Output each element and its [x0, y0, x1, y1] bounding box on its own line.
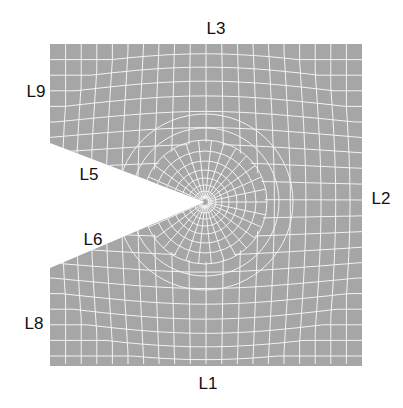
mesh-diagram	[0, 0, 403, 408]
edge-label-l1: L1	[199, 374, 218, 394]
edge-label-l8: L8	[25, 314, 44, 334]
edge-label-l6: L6	[84, 230, 103, 250]
edge-label-l9: L9	[27, 82, 46, 102]
edge-label-l3: L3	[207, 19, 226, 39]
edge-label-l2: L2	[372, 189, 391, 209]
edge-label-l5: L5	[80, 165, 99, 185]
